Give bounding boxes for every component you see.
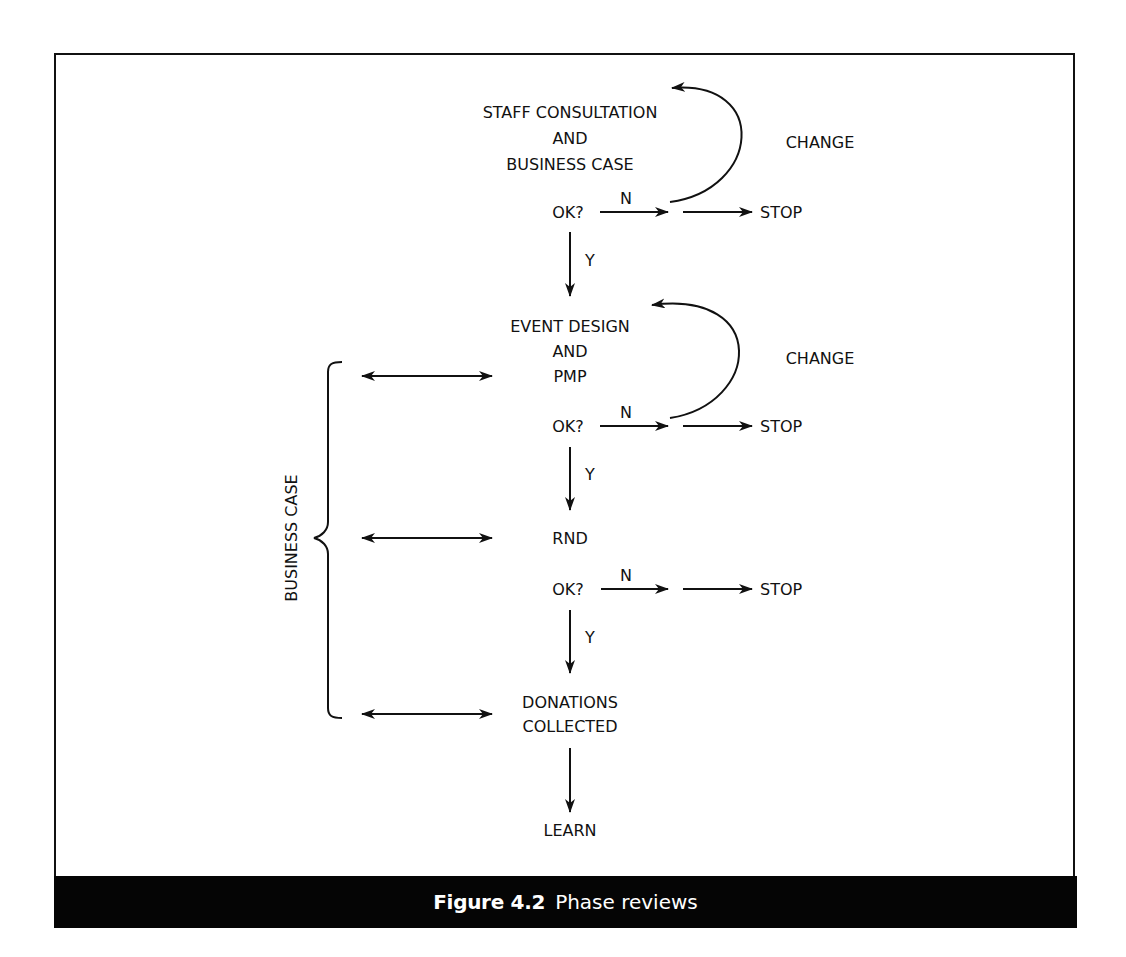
change-label-1: CHANGE [786,133,855,152]
stage-2-line-1: EVENT DESIGN [510,317,630,336]
business-case-label: BUSINESS CASE [282,474,301,601]
decision-1: OK? N STOP Y [552,189,802,296]
yes-label-2: Y [584,465,595,484]
yes-label-1: Y [584,251,595,270]
stage-event-design: EVENT DESIGN AND PMP [510,317,630,386]
no-label-2: N [620,403,632,422]
stage-4-line-1: DONATIONS [522,693,618,712]
ok-question-2: OK? [552,417,584,436]
decision-3: OK? N STOP Y [552,566,802,673]
figure-title: Phase reviews [555,890,698,914]
stage-5-learn: LEARN [543,821,596,840]
stage-2-line-2: AND [552,342,587,361]
no-label-3: N [620,566,632,585]
yes-label-3: Y [584,628,595,647]
stage-1-line-3: BUSINESS CASE [506,155,633,174]
change-loop-arrow-2 [652,304,739,418]
decision-2: OK? N STOP Y [552,403,802,510]
phase-review-flowchart: STAFF CONSULTATION AND BUSINESS CASE CHA… [0,0,1126,957]
stage-4-line-2: COLLECTED [522,717,617,736]
stage-2-line-3: PMP [553,367,586,386]
change-label-2: CHANGE [786,349,855,368]
stage-3-rnd: RND [552,529,587,548]
ok-question-3: OK? [552,580,584,599]
stage-1-line-1: STAFF CONSULTATION [483,103,658,122]
stage-1-line-2: AND [552,129,587,148]
ok-question-1: OK? [552,203,584,222]
stop-label-3: STOP [760,580,803,599]
figure-caption-bar: Figure 4.2 Phase reviews [54,876,1077,928]
stage-donations-collected: DONATIONS COLLECTED [522,693,618,736]
change-loop-arrow-1 [670,88,742,202]
figure-number: Figure 4.2 [433,890,545,914]
stage-staff-consultation: STAFF CONSULTATION AND BUSINESS CASE [483,103,658,174]
business-case-brace [314,362,342,718]
stop-label-2: STOP [760,417,803,436]
stop-label-1: STOP [760,203,803,222]
no-label-1: N [620,189,632,208]
